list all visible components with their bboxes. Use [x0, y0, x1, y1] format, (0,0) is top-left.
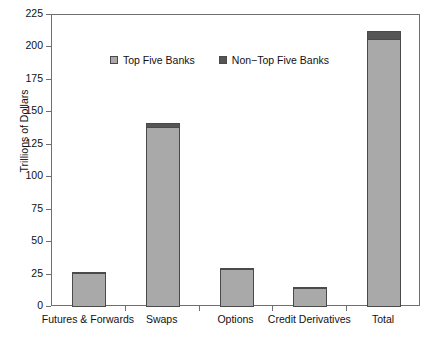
legend: Top Five Banks Non−Top Five Banks	[110, 54, 329, 66]
y-axis-tick-label: 0	[37, 299, 43, 311]
bar-options	[220, 268, 254, 307]
y-axis-tick-label: 150	[25, 104, 43, 116]
y-axis-tick-label: 175	[25, 72, 43, 84]
y-axis-tick-mark	[46, 306, 51, 307]
y-axis-title: Trillions of Dollars	[18, 41, 30, 221]
y-axis-tick-label: 50	[31, 234, 43, 246]
legend-swatch-icon-top-five-banks	[110, 56, 118, 64]
x-axis-tick-mark	[125, 306, 126, 311]
y-axis-tick-label: 200	[25, 39, 43, 51]
x-axis-tick-mark	[272, 306, 273, 311]
y-axis-tick-label: 225	[25, 7, 43, 19]
x-axis-label: Credit Derivatives	[268, 313, 351, 325]
y-axis-tick-label: 125	[25, 137, 43, 149]
x-axis-label: Swaps	[146, 313, 178, 325]
legend-label-non-top-five-banks: Non−Top Five Banks	[232, 54, 329, 66]
bar-total	[367, 31, 401, 307]
x-axis-tick-mark	[346, 306, 347, 311]
bar-segment-non-top-five-banks	[367, 31, 401, 40]
legend-item-top-five-banks: Top Five Banks	[110, 54, 195, 66]
x-axis-label: Options	[217, 313, 253, 325]
y-axis-tick-label: 75	[31, 202, 43, 214]
x-axis-label: Total	[372, 313, 394, 325]
bar-segment-top-five-banks	[146, 128, 180, 307]
y-axis-tick-label: 25	[31, 267, 43, 279]
bar-segment-top-five-banks	[220, 270, 254, 307]
bar-segment-top-five-banks	[367, 40, 401, 307]
x-axis-tick-mark	[199, 306, 200, 311]
bar-futures-forwards	[72, 272, 106, 307]
bar-chart: Trillions of Dollars 0255075100125150175…	[0, 0, 431, 337]
bar-credit-derivatives	[293, 287, 327, 307]
bar-segment-top-five-banks	[293, 289, 327, 307]
y-axis-tick-label: 100	[25, 169, 43, 181]
legend-swatch-icon-non-top-five-banks	[219, 56, 227, 64]
legend-label-top-five-banks: Top Five Banks	[123, 54, 195, 66]
legend-item-non-top-five-banks: Non−Top Five Banks	[219, 54, 329, 66]
x-axis-label: Futures & Forwards	[42, 313, 134, 325]
bar-segment-top-five-banks	[72, 274, 106, 307]
bar-swaps	[146, 123, 180, 307]
